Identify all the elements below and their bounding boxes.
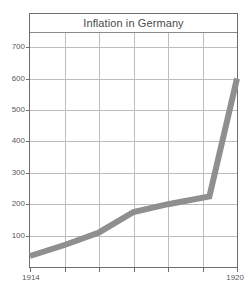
chart-title: Inflation in Germany bbox=[83, 18, 183, 29]
x-axis-label-end: 1920 bbox=[226, 274, 244, 282]
chart-container: Inflation in Germany 1002003004005006007… bbox=[0, 0, 248, 291]
y-axis-tick-label: 400 bbox=[1, 137, 25, 145]
y-axis-tick-label: 500 bbox=[1, 106, 25, 114]
y-axis-tick-label: 300 bbox=[1, 169, 25, 177]
y-axis-tick-labels: 100200300400500600700 bbox=[0, 0, 25, 291]
plot-frame bbox=[29, 13, 238, 268]
y-axis-tick-label: 600 bbox=[1, 75, 25, 83]
x-axis-label-start: 1914 bbox=[22, 274, 40, 282]
chart-title-band: Inflation in Germany bbox=[30, 14, 237, 33]
y-axis-tick-label: 200 bbox=[1, 200, 25, 208]
y-axis-tick-label: 700 bbox=[1, 43, 25, 51]
y-axis-tick-label: 100 bbox=[1, 232, 25, 240]
